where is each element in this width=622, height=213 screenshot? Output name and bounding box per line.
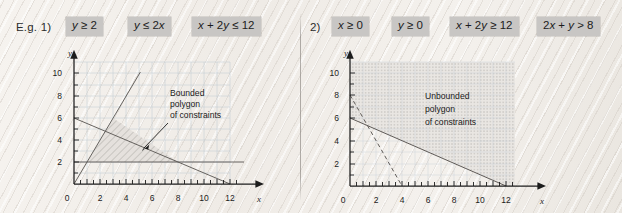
example-1-label: E.g. 1) (16, 21, 51, 33)
x-tick-8: 8 (176, 193, 181, 203)
constraint-pill-2-4: 2x + y > 8 (537, 17, 600, 36)
y-tick-8: 8 (334, 90, 339, 100)
constraint-rest2: ≥ 12 (487, 19, 513, 31)
example-2-label: 2) (310, 21, 321, 33)
x-tick-4: 4 (400, 195, 405, 205)
x-tick-2: 2 (374, 195, 379, 205)
annotation-line-3: of constraints (425, 117, 476, 127)
constraint-rest: ≥ 0 (404, 19, 423, 31)
y-tick-6: 6 (57, 113, 62, 123)
x-tick-4: 4 (124, 193, 129, 203)
y-tick-10: 10 (53, 68, 63, 78)
x-tick-12: 12 (501, 195, 511, 205)
y-tick-2: 2 (334, 159, 339, 169)
y-axis-ticks (74, 73, 79, 173)
annotation-line-1: Unbounded (425, 91, 470, 101)
y-tick-8: 8 (57, 91, 62, 101)
x-tick-6: 6 (150, 193, 155, 203)
constraint-pill-2-2: y ≥ 0 (392, 17, 429, 36)
x-tick-6: 6 (426, 195, 431, 205)
grid-lines (74, 62, 230, 184)
constraint-rest: + (555, 19, 568, 31)
x-tick-8: 8 (452, 195, 457, 205)
annotation-line-3: of constraints (170, 110, 221, 120)
constraint-pill-2-1: x ≥ 0 (332, 17, 369, 36)
example-panel-1: E.g. 1) y ≥ 2 y ≤ 2x x + 2y ≤ 12 (0, 0, 300, 213)
y-tick-6: 6 (334, 113, 339, 123)
constraint-pill-2-3: x + 2y ≥ 12 (450, 17, 519, 36)
x-tick-12: 12 (225, 193, 235, 203)
y-axis-label: y (67, 48, 72, 58)
example-panel-2: 2) x ≥ 0 y ≥ 0 x + 2y ≥ 12 2x + y > 8 (302, 0, 622, 213)
graph-unbounded-polygon: 10 8 6 4 2 0 2 4 6 8 10 12 y x Unbounded… (320, 44, 590, 212)
annotation-arrow (144, 123, 168, 148)
constraint-rest: ≤ 2 (140, 19, 159, 31)
x-axis-label: x (256, 194, 261, 204)
constraint-rest2: ≤ 12 (229, 19, 255, 31)
y-tick-4: 4 (334, 136, 339, 146)
y-tick-4: 4 (57, 135, 62, 145)
x-axis-label: x (539, 196, 544, 206)
constraint-pill-1-3: x + 2y ≤ 12 (192, 17, 261, 36)
constraint-pill-1-2: y ≤ 2x (128, 17, 171, 36)
constraint-rest: + 2 (462, 19, 482, 31)
constraint-rest: ≥ 0 (344, 19, 363, 31)
x-tick-10: 10 (475, 195, 485, 205)
annotation-line-1: Bounded (170, 88, 205, 98)
x-axis-ticks (357, 181, 513, 186)
annotation-line-2: polygon (425, 104, 455, 114)
annotation-line-2: polygon (170, 99, 200, 109)
y-tick-10: 10 (330, 68, 340, 78)
panel-divider (300, 14, 301, 200)
constraint-rest: + 2 (204, 19, 224, 31)
constraint-rest: ≥ 2 (78, 19, 97, 31)
origin-label: 0 (341, 195, 346, 205)
constraint-rest2: > 8 (574, 19, 594, 31)
constraint-pill-1-1: y ≥ 2 (66, 17, 103, 36)
x-tick-2: 2 (98, 193, 103, 203)
x-axis-ticks (81, 179, 237, 184)
constraint-var2: x (159, 19, 165, 31)
x-tick-10: 10 (199, 193, 209, 203)
y-axis-label: y (343, 48, 348, 58)
y-tick-2: 2 (57, 157, 62, 167)
graph-bounded-polygon: 10 8 6 4 2 0 2 4 6 8 10 12 y x Bounded p… (44, 44, 294, 212)
line-y-equals-2x (74, 72, 140, 184)
origin-label: 0 (65, 193, 70, 203)
